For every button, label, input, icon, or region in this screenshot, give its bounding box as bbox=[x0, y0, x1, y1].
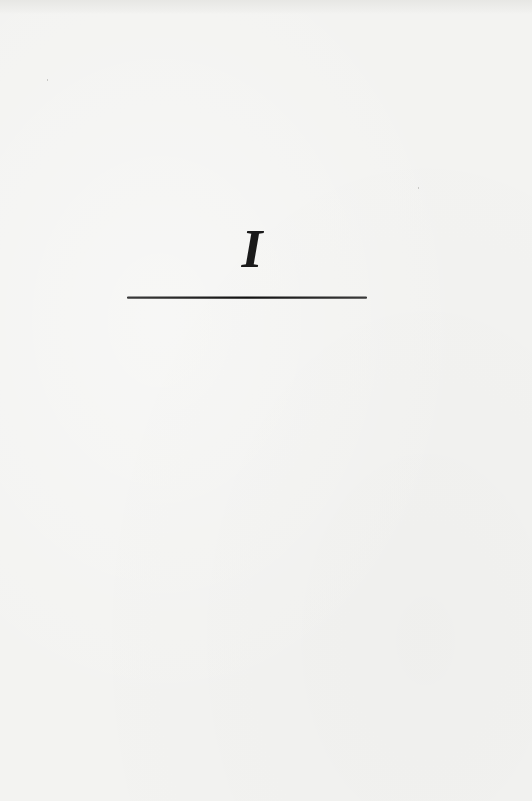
scan-top-edge bbox=[0, 0, 532, 14]
book-page: I bbox=[0, 0, 532, 801]
paper-speck bbox=[47, 79, 48, 81]
chapter-number-heading: I bbox=[0, 222, 532, 276]
paper-speck bbox=[418, 187, 419, 189]
chapter-divider-rule bbox=[127, 296, 367, 298]
